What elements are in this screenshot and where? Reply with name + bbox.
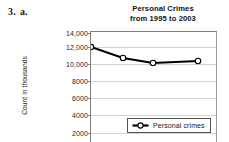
y-tick-label: 2000	[52, 130, 88, 137]
y-tick-label: 8000	[52, 78, 88, 85]
y-axis-title: Count in thousands	[21, 38, 28, 134]
data-point-marker	[195, 58, 200, 63]
y-tick-label: 6000	[52, 95, 88, 102]
y-tick-label: 14,000	[52, 30, 88, 37]
chart-legend: Personal crimes	[127, 118, 211, 133]
data-point-marker	[150, 60, 155, 65]
y-tick-label: 4000	[52, 112, 88, 119]
series-line	[91, 47, 198, 63]
chart-title-line-1: Personal Crimes	[104, 4, 222, 14]
legend-label: Personal crimes	[153, 122, 205, 129]
line-open-circle-marker-icon	[132, 121, 149, 130]
data-point-marker	[90, 44, 94, 49]
chart-title-line-2: from 1995 to 2003	[104, 14, 222, 24]
line-chart-figure: Personal Crimes from 1995 to 2003 Count …	[0, 0, 229, 142]
figure-page: 3.a. Personal Crimes from 1995 to 2003 C…	[0, 0, 229, 142]
y-axis-tick-labels: 14,000 12,000 10,000 8000 6000 4000 2000	[52, 0, 88, 142]
y-tick-label: 12,000	[52, 44, 88, 51]
chart-title: Personal Crimes from 1995 to 2003	[104, 4, 222, 23]
data-point-marker	[120, 55, 125, 60]
y-tick-label: 10,000	[52, 61, 88, 68]
